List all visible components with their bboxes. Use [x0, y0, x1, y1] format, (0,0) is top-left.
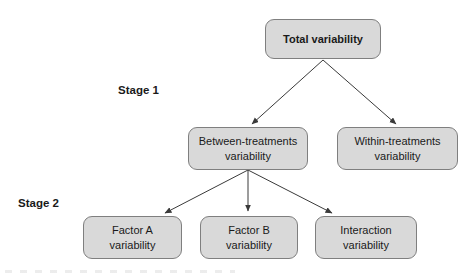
stage-2-label: Stage 2 — [18, 197, 59, 209]
node-factor-b-variability: Factor B variability — [200, 216, 298, 259]
node-within-treatments-variability: Within-treatments variability — [337, 127, 458, 170]
node-label: Factor A variability — [110, 223, 156, 252]
node-total-variability: Total variability — [265, 19, 381, 59]
cropped-caption-fragment — [5, 270, 235, 273]
node-label: Within-treatments variability — [354, 134, 440, 163]
node-interaction-variability: Interaction variability — [315, 216, 417, 259]
diagram-canvas: Total variability Between-treatments var… — [0, 0, 473, 275]
node-label: Total variability — [283, 32, 363, 46]
node-factor-a-variability: Factor A variability — [83, 216, 182, 259]
node-label: Factor B variability — [226, 223, 272, 252]
node-between-treatments-variability: Between-treatments variability — [188, 127, 308, 170]
node-label: Interaction variability — [340, 223, 391, 252]
edge-between-to-factor-a — [165, 170, 248, 213]
edge-between-to-interaction — [248, 170, 332, 213]
node-label: Between-treatments variability — [199, 134, 297, 163]
stage-1-label: Stage 1 — [118, 84, 159, 96]
edge-total-to-between — [252, 60, 323, 124]
edge-total-to-within — [323, 60, 396, 124]
